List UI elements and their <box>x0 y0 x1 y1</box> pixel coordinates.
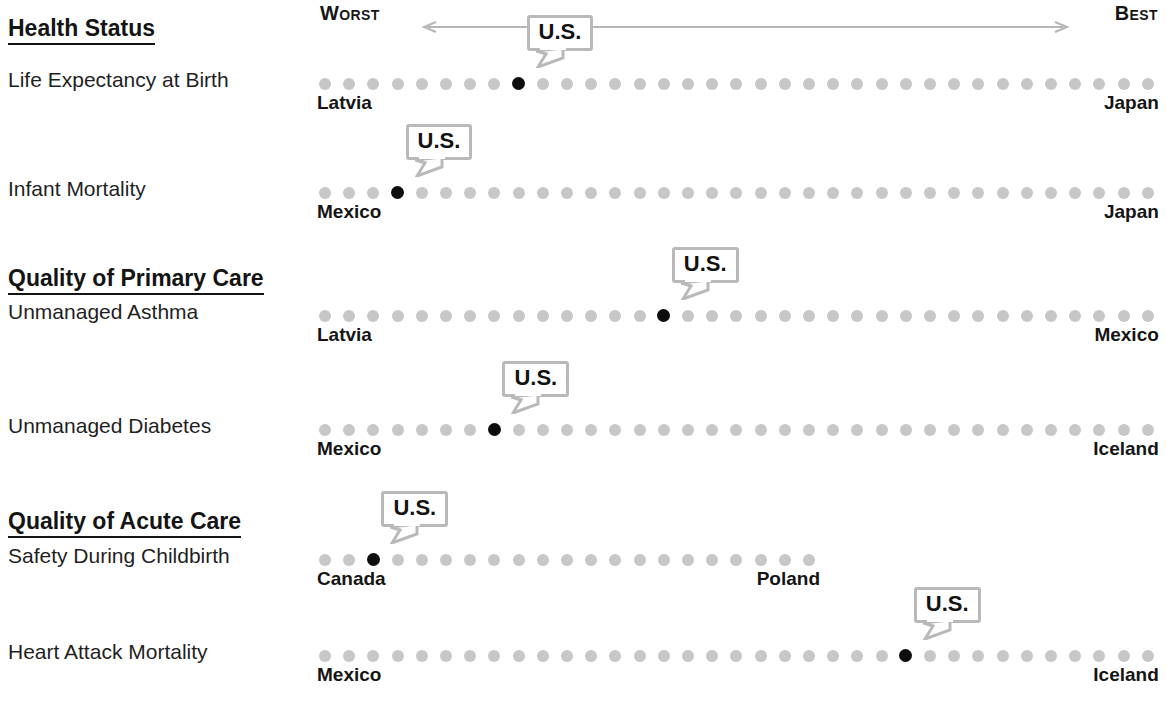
callout-tail-icon <box>536 48 570 68</box>
country-rank-dot <box>682 554 694 566</box>
worst-country-label: Mexico <box>317 201 381 223</box>
country-rank-dot <box>658 424 670 436</box>
country-rank-dot <box>851 424 863 436</box>
country-rank-dot <box>416 554 428 566</box>
country-rank-dot <box>755 424 767 436</box>
country-rank-dot <box>779 310 791 322</box>
worst-country-label: Mexico <box>317 438 381 460</box>
us-rank-dot <box>488 423 501 436</box>
country-rank-dot <box>948 310 960 322</box>
country-rank-dot <box>924 650 936 662</box>
country-rank-dot <box>900 310 912 322</box>
country-rank-dot <box>1045 310 1057 322</box>
country-rank-dot <box>706 424 718 436</box>
best-country-label: Japan <box>1104 201 1159 223</box>
country-rank-dot <box>537 424 549 436</box>
country-rank-dot <box>779 650 791 662</box>
country-rank-dot <box>513 650 525 662</box>
country-rank-dot <box>1118 187 1130 199</box>
country-rank-dot <box>488 187 500 199</box>
us-callout-label: U.S. <box>672 247 739 283</box>
country-rank-dot <box>561 554 573 566</box>
country-rank-dot <box>1045 650 1057 662</box>
country-rank-dot <box>730 78 742 90</box>
country-rank-dot <box>464 78 476 90</box>
country-rank-dot <box>513 187 525 199</box>
country-rank-dot <box>1093 187 1105 199</box>
country-rank-dot <box>658 187 670 199</box>
country-rank-dot <box>900 424 912 436</box>
country-rank-dot <box>924 310 936 322</box>
country-rank-dot <box>972 187 984 199</box>
country-rank-dot <box>755 187 767 199</box>
country-rank-dot <box>367 424 379 436</box>
country-rank-dot <box>392 78 404 90</box>
country-rank-dot <box>319 187 331 199</box>
country-rank-dot <box>561 650 573 662</box>
country-rank-dot <box>997 78 1009 90</box>
metric-row: Life Expectancy at BirthLatviaJapan <box>0 54 1166 106</box>
country-rank-dot <box>730 187 742 199</box>
country-rank-dot <box>1093 310 1105 322</box>
country-rank-dot <box>827 424 839 436</box>
country-rank-dot <box>440 78 452 90</box>
ranking-track <box>0 310 1166 324</box>
country-rank-dot <box>319 650 331 662</box>
country-rank-dot <box>1093 78 1105 90</box>
country-rank-dot <box>1118 78 1130 90</box>
country-rank-dot <box>440 650 452 662</box>
country-rank-dot <box>730 424 742 436</box>
country-rank-dot <box>319 78 331 90</box>
country-rank-dot <box>706 554 718 566</box>
double-headed-arrow-icon <box>418 19 1073 31</box>
country-rank-dot <box>779 424 791 436</box>
country-rank-dot <box>537 650 549 662</box>
country-rank-dot <box>464 650 476 662</box>
country-rank-dot <box>585 554 597 566</box>
us-callout-label: U.S. <box>527 15 594 51</box>
country-rank-dot <box>367 310 379 322</box>
country-rank-dot <box>585 310 597 322</box>
scale-best-label: Best <box>1115 1 1158 25</box>
country-rank-dot <box>900 78 912 90</box>
country-rank-dot <box>1093 424 1105 436</box>
country-rank-dot <box>1045 78 1057 90</box>
country-rank-dot <box>1021 78 1033 90</box>
country-rank-dot <box>730 554 742 566</box>
country-rank-dot <box>609 424 621 436</box>
country-rank-dot <box>1021 650 1033 662</box>
country-rank-dot <box>730 310 742 322</box>
country-rank-dot <box>488 78 500 90</box>
country-rank-dot <box>343 310 355 322</box>
country-rank-dot <box>755 554 767 566</box>
best-country-label: Iceland <box>1093 664 1158 686</box>
country-rank-dot <box>1021 310 1033 322</box>
country-rank-dot <box>634 650 646 662</box>
country-rank-dot <box>755 650 767 662</box>
country-rank-dot <box>1069 78 1081 90</box>
country-rank-dot <box>682 187 694 199</box>
country-rank-dot <box>682 424 694 436</box>
country-rank-dot <box>755 78 767 90</box>
metric-row: Unmanaged DiabetesMexicoIceland <box>0 400 1166 452</box>
callout-tail-icon <box>681 280 715 300</box>
section-title: Health Status <box>8 15 155 45</box>
country-rank-dot <box>658 554 670 566</box>
country-rank-dot <box>658 650 670 662</box>
country-rank-dot <box>561 187 573 199</box>
country-rank-dot <box>876 310 888 322</box>
country-rank-dot <box>343 187 355 199</box>
country-rank-dot <box>609 78 621 90</box>
country-rank-dot <box>803 424 815 436</box>
country-rank-dot <box>1118 650 1130 662</box>
us-rank-dot <box>657 309 670 322</box>
country-rank-dot <box>416 424 428 436</box>
country-rank-dot <box>682 310 694 322</box>
country-rank-dot <box>392 650 404 662</box>
country-rank-dot <box>634 310 646 322</box>
country-rank-dot <box>803 78 815 90</box>
country-rank-dot <box>464 424 476 436</box>
callout-tail-icon <box>923 620 957 640</box>
country-rank-dot <box>827 650 839 662</box>
country-rank-dot <box>1093 650 1105 662</box>
